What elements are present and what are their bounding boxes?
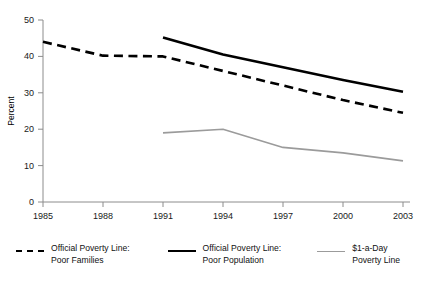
- x-tick-label-1988: 1988: [93, 211, 113, 221]
- chart-figure: 0 10 20 30 40 50 Percent 1985 1988 1991 …: [0, 0, 424, 283]
- legend-item-label: $1-a-Day Poverty Line: [352, 243, 400, 266]
- y-axis-title: Percent: [6, 96, 16, 126]
- x-tick-label-1994: 1994: [213, 211, 233, 221]
- legend-item-one-dollar-a-day[interactable]: $1-a-Day Poverty Line: [317, 243, 424, 266]
- x-tick-label-1985: 1985: [33, 211, 53, 221]
- solid-line-icon: [168, 245, 196, 257]
- line-chart-plot: 0 10 20 30 40 50 Percent 1985 1988 1991 …: [0, 0, 424, 283]
- legend-item-poor-population[interactable]: Official Poverty Line: Poor Population: [168, 243, 314, 266]
- legend-item-label: Official Poverty Line: Poor Population: [203, 243, 282, 266]
- series-line-poor-population: [163, 37, 403, 91]
- y-tick-label-30: 30: [24, 88, 34, 98]
- dashed-line-icon: [16, 245, 44, 257]
- y-tick-label-40: 40: [24, 51, 34, 61]
- y-tick-marks: [38, 20, 43, 202]
- x-tick-label-1997: 1997: [273, 211, 293, 221]
- x-tick-label-1991: 1991: [153, 211, 173, 221]
- x-tick-label-2003: 2003: [393, 211, 413, 221]
- chart-legend: Official Poverty Line: Poor Families Off…: [0, 243, 424, 283]
- series-line-one-dollar-a-day: [163, 129, 403, 161]
- legend-item-label: Official Poverty Line: Poor Families: [51, 243, 130, 266]
- y-tick-label-0: 0: [29, 197, 34, 207]
- legend-item-poor-families[interactable]: Official Poverty Line: Poor Families: [16, 243, 162, 266]
- y-tick-label-50: 50: [24, 15, 34, 25]
- series-line-poor-families: [43, 42, 403, 113]
- x-tick-marks: [43, 202, 403, 207]
- y-tick-label-20: 20: [24, 124, 34, 134]
- y-tick-label-10: 10: [24, 161, 34, 171]
- gray-line-icon: [317, 245, 345, 257]
- x-tick-label-2000: 2000: [333, 211, 353, 221]
